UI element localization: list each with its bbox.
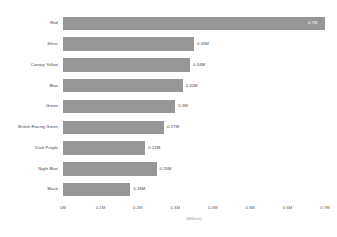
bar-row — [63, 121, 325, 135]
x-tick-label: 0.6M — [274, 206, 302, 210]
bar-chart: RedSilverCanary YellowBlueGreenBritish R… — [0, 0, 337, 237]
bar-value-label: 0.25M — [160, 167, 172, 171]
x-tick-label: 0.1M — [86, 206, 114, 210]
bar-value-label: 0.22M — [148, 146, 160, 150]
bar-row — [63, 183, 325, 197]
category-label: Silver — [0, 42, 58, 46]
bar-value-label: 0.35M — [197, 42, 209, 46]
bar — [63, 37, 194, 51]
bar-row — [63, 162, 325, 176]
bar-value-label: 0.3M — [178, 104, 188, 108]
category-label: Blue — [0, 84, 58, 88]
bar — [63, 100, 175, 114]
bar — [63, 17, 325, 31]
x-tick-label: 0.4M — [199, 206, 227, 210]
bar-row — [63, 100, 325, 114]
category-label: Red — [0, 21, 58, 25]
category-label: British Racing Green — [0, 125, 58, 129]
bar — [63, 58, 190, 72]
bar — [63, 183, 130, 197]
x-tick-label: 0.7M — [311, 206, 337, 210]
category-label: Canary Yellow — [0, 63, 58, 67]
x-axis-title: (Millions) — [154, 218, 234, 222]
x-tick-label: 0.3M — [161, 206, 189, 210]
bar-value-label: 0.7M — [308, 21, 318, 25]
bar-value-label: 0.27M — [167, 125, 179, 129]
category-label: Dark Purple — [0, 146, 58, 150]
category-label: Night Blue — [0, 167, 58, 171]
bar — [63, 162, 157, 176]
x-tick-label: 0.5M — [236, 206, 264, 210]
category-label: Green — [0, 104, 58, 108]
bar — [63, 79, 183, 93]
bar-value-label: 0.18M — [133, 187, 145, 191]
bar-value-label: 0.32M — [186, 84, 198, 88]
bar — [63, 141, 145, 155]
bar-value-label: 0.34M — [193, 63, 205, 67]
bar-row — [63, 37, 325, 51]
category-label: Black — [0, 187, 58, 191]
bar — [63, 121, 164, 135]
bar-row — [63, 141, 325, 155]
x-tick-label: 0M — [49, 206, 77, 210]
bar-row — [63, 17, 325, 31]
x-tick-label: 0.2M — [124, 206, 152, 210]
